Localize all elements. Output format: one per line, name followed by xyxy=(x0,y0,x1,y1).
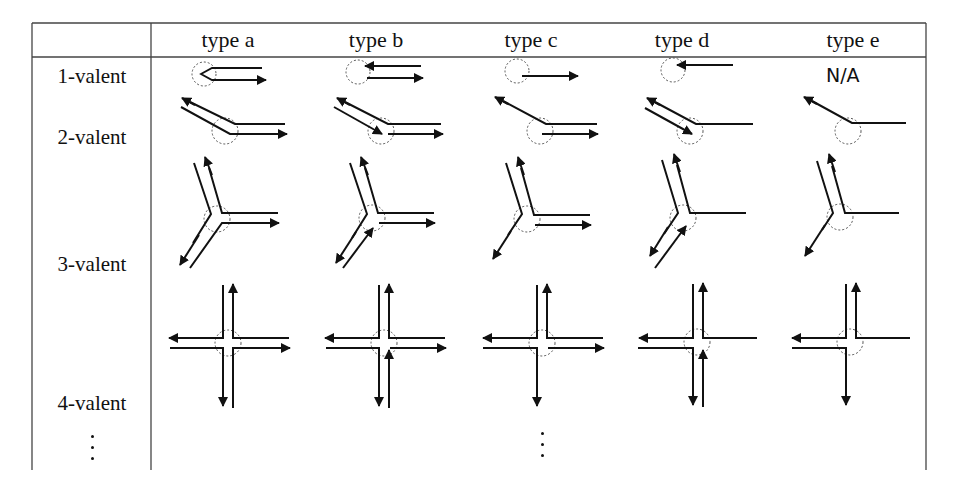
cell-3valent-type-c xyxy=(493,157,591,259)
strand-up-left xyxy=(494,285,537,338)
strand-up-left xyxy=(652,284,693,338)
strand-left xyxy=(193,163,211,243)
row-label-4-valent: 4-valent xyxy=(33,391,151,416)
vertex-circle xyxy=(661,58,685,82)
strand-left xyxy=(506,163,522,235)
strand-up-right xyxy=(389,300,445,338)
strand-up-right xyxy=(547,300,603,338)
cell-2valent-type-d xyxy=(645,98,753,144)
type-e-1-valent-na: N/A xyxy=(826,64,860,86)
row-label-1-valent: 1-valent xyxy=(33,64,151,89)
valence-type-diagram: type a type b type c type d type e 1-val… xyxy=(0,0,956,494)
column-continuation-dots-icon xyxy=(540,432,546,465)
arrow-up-icon xyxy=(518,157,524,175)
vertex-circle xyxy=(215,330,241,356)
strand-up-right xyxy=(856,300,910,338)
strand-upper xyxy=(503,101,597,124)
column-header-type-e: type e xyxy=(793,24,913,56)
row-label-2-valent: 2-valent xyxy=(33,125,151,150)
strand-upper-right xyxy=(521,168,590,215)
cell-3valent-type-a xyxy=(180,157,279,268)
strand-down-right xyxy=(233,348,278,408)
cell-2valent-type-b xyxy=(334,98,443,144)
strand-upper-right xyxy=(677,165,746,213)
arrow-up-left-icon xyxy=(495,97,508,104)
vertex-circle xyxy=(529,330,555,356)
vertex-circle xyxy=(192,62,216,86)
cell-1valent-type-c xyxy=(505,59,578,83)
cell-3valent-type-d xyxy=(650,154,746,268)
cell-2valent-type-a xyxy=(181,98,287,144)
cell-1valent-type-b xyxy=(346,60,423,84)
arrow-up-icon xyxy=(674,154,680,172)
strand-up-right xyxy=(703,300,757,338)
strand-left-down xyxy=(170,348,223,390)
strand-up-left xyxy=(336,285,379,338)
vertex-circle xyxy=(837,329,863,355)
table-grid xyxy=(32,23,926,470)
strand-upper-right xyxy=(832,166,899,213)
arrow-down-right-icon xyxy=(645,108,692,134)
arrow-up-right-icon xyxy=(343,228,373,268)
arrow-down-left-icon xyxy=(493,231,511,259)
arrow-up-left-icon xyxy=(804,97,817,104)
strand-left-down xyxy=(792,348,846,388)
strand-upper-right xyxy=(209,168,278,213)
strand-up-left xyxy=(180,285,223,338)
cell-1valent-type-d xyxy=(661,58,733,82)
column-header-type-d: type d xyxy=(622,24,742,56)
cell-4valent-type-c xyxy=(483,284,604,406)
column-header-type-c: type c xyxy=(471,24,591,56)
strand-left-down xyxy=(638,348,693,388)
cell-4valent-type-d xyxy=(638,283,757,407)
vertex-circle xyxy=(359,205,385,231)
vertex-circle xyxy=(368,118,394,144)
strand-upper-right xyxy=(365,168,434,213)
vertex-circle xyxy=(346,60,370,84)
row-label-3-valent: 3-valent xyxy=(33,252,151,277)
vertex-circle xyxy=(505,59,529,83)
strand-up-right xyxy=(233,300,289,338)
strand-up-left xyxy=(804,284,846,338)
cell-3valent-type-e xyxy=(805,154,899,256)
row-continuation-dots-icon xyxy=(90,435,96,468)
vertex-circle xyxy=(684,329,710,355)
column-header-type-b: type b xyxy=(316,24,436,56)
arrow-down-right-icon xyxy=(334,107,382,134)
strand-left xyxy=(350,163,367,238)
cell-2valent-type-c xyxy=(495,97,598,144)
arrow-up-left-icon xyxy=(337,98,350,105)
arrow-down-left-icon xyxy=(805,225,825,256)
strand-left-down xyxy=(326,348,379,390)
arrow-up-left-icon xyxy=(647,98,660,105)
strand-left xyxy=(662,160,678,234)
cell-3valent-type-b xyxy=(336,157,435,268)
arrow-up-icon xyxy=(205,157,212,175)
arrow-up-right-icon xyxy=(655,226,686,268)
cell-1valent-type-a xyxy=(192,62,266,86)
column-header-type-a: type a xyxy=(168,24,288,56)
cell-4valent-type-a xyxy=(169,284,290,408)
arrow-up-icon xyxy=(361,157,368,175)
cell-4valent-type-e xyxy=(792,283,910,405)
cell-2valent-type-e xyxy=(804,97,906,144)
arrow-down-left-icon xyxy=(336,232,356,263)
arrow-up-left-icon xyxy=(182,98,195,105)
strand-left xyxy=(817,161,833,230)
arrow-down-left-icon xyxy=(650,227,668,256)
vertex-circle xyxy=(371,330,397,356)
strand-left-down xyxy=(483,348,537,390)
cell-4valent-type-b xyxy=(325,284,446,408)
strand-upper xyxy=(812,101,906,123)
strand-loop xyxy=(201,68,262,80)
